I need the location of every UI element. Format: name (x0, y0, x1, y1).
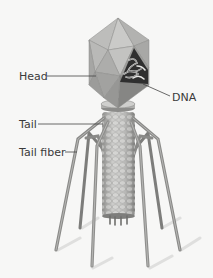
head-label: Head (19, 71, 48, 82)
dna-label: DNA (172, 92, 196, 103)
tail-sheath (102, 112, 135, 225)
phage-diagram: Head DNA Tail Tail fiber (0, 0, 213, 278)
dna-leader-line (143, 84, 170, 96)
tail-fiber-label: Tail fiber (19, 147, 65, 158)
tail-label: Tail (19, 119, 37, 130)
phage-illustration (0, 0, 213, 278)
